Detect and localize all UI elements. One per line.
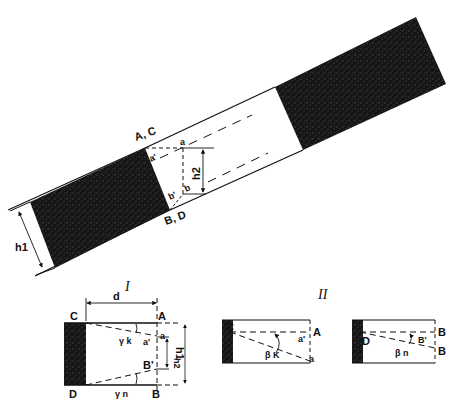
view-II-title: II bbox=[317, 287, 329, 302]
label-B-top: B bbox=[438, 326, 446, 338]
label-B: B bbox=[152, 388, 160, 400]
band-upper-edge-mid bbox=[145, 87, 275, 148]
label-C: C bbox=[226, 321, 234, 333]
centre-dash-upper bbox=[160, 115, 252, 158]
label-a: a bbox=[180, 137, 186, 147]
label-a-prime: a' bbox=[143, 337, 150, 347]
label-B-prime: B' bbox=[418, 335, 427, 345]
h1-ext-bottom bbox=[36, 268, 55, 275]
right-wall-block bbox=[275, 17, 446, 150]
centre-dash-lower bbox=[208, 153, 268, 182]
label-h1: h1 bbox=[174, 347, 186, 360]
sight-line-c-a bbox=[86, 323, 157, 336]
label-b: b bbox=[183, 182, 193, 194]
label-A: A bbox=[158, 310, 166, 322]
label-a: a bbox=[160, 331, 166, 341]
view-I-title: I bbox=[124, 279, 131, 294]
label-h2: h2 bbox=[190, 167, 202, 180]
label-a: a bbox=[309, 354, 315, 364]
label-B-prime: B' bbox=[143, 359, 154, 371]
view-I: I d C A D B a a' B' γ k γ n bbox=[64, 279, 186, 400]
label-ac: A, C bbox=[133, 124, 158, 143]
sight-line-d-b bbox=[86, 369, 157, 385]
label-beta-k: β K bbox=[265, 350, 280, 360]
label-h1: h1 bbox=[15, 241, 28, 253]
label-gamma-n: γ n bbox=[115, 389, 128, 399]
label-a-prime: a' bbox=[298, 334, 305, 344]
label-b-prime: b' bbox=[167, 190, 178, 202]
label-B-bottom: B bbox=[438, 345, 446, 357]
main-tilted-view: A, C a a' b b' B, D h2 h1 bbox=[8, 17, 446, 276]
opening-geometry-diagram: A, C a a' b b' B, D h2 h1 I d bbox=[0, 0, 458, 407]
label-A: A bbox=[313, 326, 321, 338]
view-I-wall bbox=[64, 323, 86, 385]
gamma-k-arc bbox=[136, 324, 137, 333]
view-II-left: C A a a' β K bbox=[222, 320, 321, 364]
label-D: D bbox=[69, 388, 77, 400]
view-II-right: D B B B' β n bbox=[352, 320, 446, 363]
label-gamma-k: γ k bbox=[119, 336, 133, 346]
label-beta-n: β n bbox=[395, 348, 409, 358]
h1-ext-top bbox=[10, 202, 30, 211]
view-II: II C A a a' β K D B B bbox=[222, 287, 446, 364]
gamma-n-arc bbox=[136, 373, 137, 384]
left-wall-block bbox=[30, 148, 170, 268]
label-d: d bbox=[113, 290, 120, 302]
label-D: D bbox=[362, 335, 370, 347]
label-C: C bbox=[70, 310, 78, 322]
